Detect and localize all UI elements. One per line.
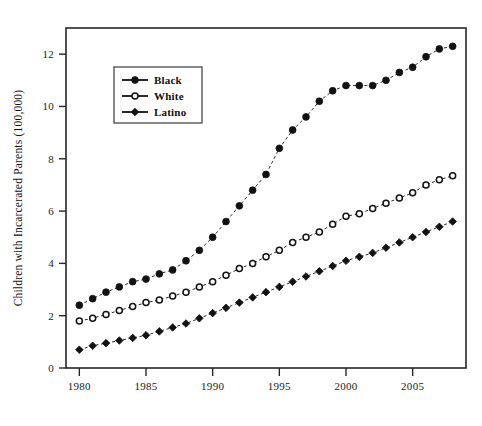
y-tick-label-4: 8 [48, 153, 54, 165]
data-point-latino-1982 [102, 339, 110, 347]
y-tick-label-1: 2 [48, 310, 54, 322]
data-point-white-1993 [250, 260, 256, 266]
data-point-latino-1981 [89, 342, 97, 350]
data-point-black-1996 [289, 127, 296, 134]
data-point-latino-1987 [169, 324, 177, 332]
data-point-black-1994 [263, 171, 270, 178]
data-point-white-1997 [303, 234, 309, 240]
data-point-white-1992 [236, 266, 242, 272]
y-axis-title: Children with Incarcerated Parents (100,… [12, 90, 25, 307]
legend-label-white: White [154, 90, 184, 102]
data-point-black-1985 [143, 276, 150, 283]
chart-figure: 024681012198019851990199520002005Childre… [0, 0, 482, 426]
data-point-latino-1991 [222, 304, 230, 312]
data-point-white-1994 [263, 254, 269, 260]
data-point-white-2006 [423, 182, 429, 188]
data-point-black-2006 [423, 53, 430, 60]
data-point-latino-1997 [302, 273, 310, 281]
x-tick-label-5: 2005 [401, 380, 424, 392]
data-point-black-1991 [223, 218, 230, 225]
data-point-black-1980 [76, 302, 83, 309]
y-tick-label-6: 12 [42, 48, 54, 60]
data-point-white-1986 [156, 297, 162, 303]
data-point-white-1987 [170, 293, 176, 299]
data-point-latino-1986 [156, 328, 164, 336]
data-point-latino-1985 [142, 332, 150, 340]
data-point-black-1997 [303, 114, 310, 121]
data-point-latino-2006 [422, 228, 430, 236]
data-point-black-2002 [369, 82, 376, 89]
legend: BlackWhiteLatino [114, 67, 202, 123]
data-point-black-1995 [276, 145, 283, 152]
data-point-white-2005 [410, 190, 416, 196]
series-latino [76, 218, 457, 354]
data-point-white-2007 [436, 177, 442, 183]
data-point-latino-1999 [329, 262, 337, 270]
data-point-black-1998 [316, 98, 323, 105]
data-point-white-1999 [330, 221, 336, 227]
data-point-white-1985 [143, 300, 149, 306]
data-point-black-1987 [169, 267, 176, 274]
data-point-latino-1994 [262, 288, 270, 296]
data-point-white-1988 [183, 289, 189, 295]
data-point-latino-1990 [209, 309, 217, 317]
data-point-white-1991 [223, 272, 229, 278]
data-point-white-2000 [343, 213, 349, 219]
data-point-black-2003 [383, 77, 390, 84]
data-point-black-1986 [156, 270, 163, 277]
y-tick-label-3: 6 [48, 205, 54, 217]
data-point-latino-1992 [236, 299, 244, 307]
series-white [76, 173, 455, 324]
data-point-white-1998 [316, 229, 322, 235]
x-tick-label-1: 1985 [134, 380, 157, 392]
x-tick-label-3: 1995 [268, 380, 291, 392]
data-point-latino-2008 [449, 218, 457, 226]
data-point-black-2004 [396, 69, 403, 76]
data-point-latino-2001 [356, 253, 364, 261]
data-point-latino-1989 [196, 315, 204, 323]
y-tick-label-0: 0 [48, 362, 54, 374]
data-point-black-2005 [409, 64, 416, 71]
legend-label-latino: Latino [154, 106, 187, 118]
x-tick-label-0: 1980 [68, 380, 91, 392]
data-point-latino-2005 [409, 233, 417, 241]
data-point-latino-1996 [289, 278, 297, 286]
data-point-black-1992 [236, 202, 243, 209]
data-point-latino-2007 [436, 223, 444, 231]
data-point-latino-1983 [116, 337, 124, 345]
data-point-white-2001 [356, 211, 362, 217]
data-point-latino-2002 [369, 249, 377, 257]
y-tick-label-5: 10 [42, 100, 54, 112]
legend-label-black: Black [154, 74, 183, 86]
data-point-black-1984 [129, 278, 136, 285]
data-point-white-1996 [290, 239, 296, 245]
data-point-latino-1998 [316, 267, 324, 275]
data-point-latino-1984 [129, 334, 137, 342]
data-point-white-1980 [76, 318, 82, 324]
series-line-latino [79, 222, 452, 350]
legend-marker-black [132, 77, 139, 84]
data-point-white-1990 [210, 279, 216, 285]
data-point-black-1983 [116, 284, 123, 291]
data-point-white-1995 [276, 247, 282, 253]
legend-marker-white [132, 93, 138, 99]
data-point-white-2002 [370, 205, 376, 211]
data-point-latino-1995 [276, 283, 284, 291]
data-point-white-1982 [103, 311, 109, 317]
data-point-black-1988 [183, 257, 190, 264]
data-point-white-2003 [383, 200, 389, 206]
data-point-black-1990 [209, 234, 216, 241]
data-point-latino-1980 [76, 346, 84, 354]
data-point-white-2004 [396, 195, 402, 201]
data-point-black-2008 [449, 43, 456, 50]
data-point-latino-2003 [382, 244, 390, 252]
data-point-white-1989 [196, 284, 202, 290]
data-point-black-2007 [436, 46, 443, 53]
data-point-white-1983 [116, 307, 122, 313]
data-point-latino-1988 [182, 320, 190, 328]
data-point-black-1989 [196, 247, 203, 254]
y-tick-label-2: 4 [48, 257, 54, 269]
data-point-black-1982 [103, 289, 110, 296]
data-point-latino-1993 [249, 294, 257, 302]
line-chart: 024681012198019851990199520002005Childre… [0, 0, 482, 426]
